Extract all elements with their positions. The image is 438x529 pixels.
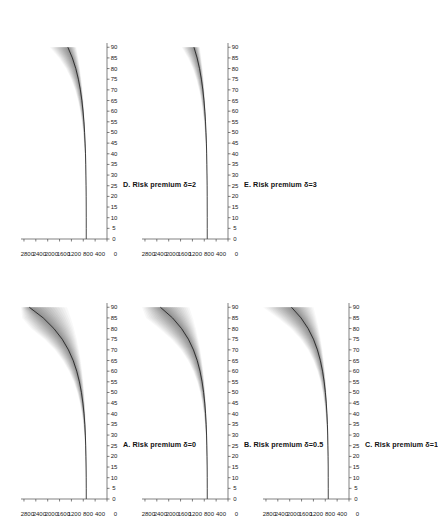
x-tick-label: 40 <box>227 151 243 157</box>
x-tick-label: 25 <box>227 183 243 189</box>
chart-panel-d: 0400800120016002000240028000510152025303… <box>8 35 129 265</box>
y-tick-label: 2800 <box>12 511 34 517</box>
x-tick-label: 50 <box>227 129 243 135</box>
x-tick-label: 90 <box>348 304 364 310</box>
x-tick-label: 30 <box>348 432 364 438</box>
uncertainty-fan-a <box>21 307 86 499</box>
x-tick-label: 40 <box>106 151 122 157</box>
x-tick-label: 40 <box>227 411 243 417</box>
x-tick-label: 20 <box>227 193 243 199</box>
x-tick-label: 85 <box>227 55 243 61</box>
x-tick-label: 80 <box>227 66 243 72</box>
x-tick-label: 65 <box>106 358 122 364</box>
x-tick-label: 20 <box>348 453 364 459</box>
x-tick-label: 50 <box>106 129 122 135</box>
uncertainty-fan-c <box>263 307 328 499</box>
x-tick-label: 35 <box>227 161 243 167</box>
chart-panel-b: 0400800120016002000240028000510152025303… <box>129 295 250 525</box>
x-tick-label: 5 <box>348 485 364 491</box>
x-tick-label: 10 <box>227 215 243 221</box>
y-tick-label: 2800 <box>12 251 34 257</box>
x-tick-label: 0 <box>106 236 122 242</box>
x-tick-label: 5 <box>227 225 243 231</box>
y-tick-label: 2800 <box>133 511 155 517</box>
x-tick-label: 60 <box>106 368 122 374</box>
x-tick-label: 75 <box>106 336 122 342</box>
x-tick-label: 45 <box>227 400 243 406</box>
panel-title-c: C. Risk premium δ=1 <box>365 440 438 449</box>
x-tick-label: 45 <box>106 400 122 406</box>
x-tick-label: 15 <box>106 464 122 470</box>
x-tick-label: 25 <box>227 443 243 449</box>
x-tick-label: 60 <box>227 108 243 114</box>
x-tick-label: 10 <box>348 475 364 481</box>
x-tick-label: 70 <box>227 347 243 353</box>
x-tick-label: 40 <box>348 411 364 417</box>
x-tick-label: 10 <box>106 215 122 221</box>
x-tick-label: 10 <box>106 475 122 481</box>
x-tick-label: 55 <box>106 119 122 125</box>
x-tick-label: 20 <box>227 453 243 459</box>
x-tick-label: 70 <box>227 87 243 93</box>
x-tick-label: 5 <box>106 485 122 491</box>
x-tick-label: 65 <box>348 358 364 364</box>
x-tick-label: 85 <box>227 315 243 321</box>
chart-panel-c: 0400800120016002000240028000510152025303… <box>250 295 371 525</box>
x-tick-label: 90 <box>106 304 122 310</box>
x-tick-label: 25 <box>106 183 122 189</box>
x-tick-label: 30 <box>227 432 243 438</box>
x-tick-label: 65 <box>227 358 243 364</box>
x-tick-label: 0 <box>227 236 243 242</box>
y-tick-label: 2800 <box>254 511 276 517</box>
x-tick-label: 75 <box>227 336 243 342</box>
x-tick-label: 35 <box>106 421 122 427</box>
x-tick-label: 45 <box>348 400 364 406</box>
x-tick-label: 65 <box>106 98 122 104</box>
x-tick-label: 65 <box>227 98 243 104</box>
x-tick-label: 10 <box>227 475 243 481</box>
x-tick-label: 25 <box>348 443 364 449</box>
x-tick-label: 45 <box>106 140 122 146</box>
x-tick-label: 30 <box>106 172 122 178</box>
x-tick-label: 25 <box>106 443 122 449</box>
x-tick-label: 0 <box>106 496 122 502</box>
x-tick-label: 70 <box>106 87 122 93</box>
x-tick-label: 60 <box>227 368 243 374</box>
x-tick-label: 80 <box>106 326 122 332</box>
x-tick-label: 5 <box>106 225 122 231</box>
x-tick-label: 55 <box>227 379 243 385</box>
x-tick-label: 15 <box>227 204 243 210</box>
x-tick-label: 20 <box>106 453 122 459</box>
x-tick-label: 55 <box>106 379 122 385</box>
x-tick-label: 30 <box>106 432 122 438</box>
x-tick-label: 90 <box>227 304 243 310</box>
x-tick-label: 80 <box>106 66 122 72</box>
x-tick-label: 15 <box>348 464 364 470</box>
x-tick-label: 35 <box>348 421 364 427</box>
uncertainty-fan-b <box>142 307 207 499</box>
x-tick-label: 80 <box>348 326 364 332</box>
x-tick-label: 45 <box>227 140 243 146</box>
x-tick-label: 15 <box>227 464 243 470</box>
x-tick-label: 80 <box>227 326 243 332</box>
x-tick-label: 75 <box>106 76 122 82</box>
x-tick-label: 60 <box>348 368 364 374</box>
uncertainty-fan-d <box>50 47 87 239</box>
x-tick-label: 85 <box>106 55 122 61</box>
x-tick-label: 55 <box>348 379 364 385</box>
x-tick-label: 85 <box>106 315 122 321</box>
x-tick-label: 70 <box>348 347 364 353</box>
chart-panel-a: 0400800120016002000240028000510152025303… <box>8 295 129 525</box>
panel-title-e: E. Risk premium δ=3 <box>244 180 317 189</box>
x-tick-label: 20 <box>106 193 122 199</box>
y-tick-label: 2800 <box>133 251 155 257</box>
x-tick-label: 75 <box>348 336 364 342</box>
x-tick-label: 75 <box>227 76 243 82</box>
x-tick-label: 70 <box>106 347 122 353</box>
x-tick-label: 30 <box>227 172 243 178</box>
x-tick-label: 50 <box>348 389 364 395</box>
x-tick-label: 35 <box>106 161 122 167</box>
